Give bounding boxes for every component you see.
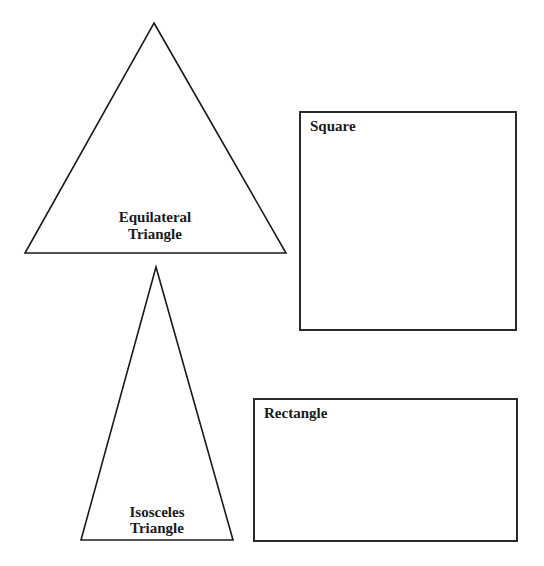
isosceles-triangle-label-line1: Isosceles <box>130 504 185 520</box>
equilateral-triangle-label-line1: Equilateral <box>119 209 192 225</box>
isosceles-triangle-label-line2: Triangle <box>130 520 184 536</box>
square: Square <box>300 112 516 330</box>
rectangle: Rectangle <box>254 399 517 541</box>
shapes-diagram: Equilateral Triangle Square Isosceles Tr… <box>0 0 544 566</box>
square-outline <box>300 112 516 330</box>
rectangle-label: Rectangle <box>264 405 328 421</box>
equilateral-triangle-label-line2: Triangle <box>128 226 182 242</box>
square-label: Square <box>310 118 356 134</box>
